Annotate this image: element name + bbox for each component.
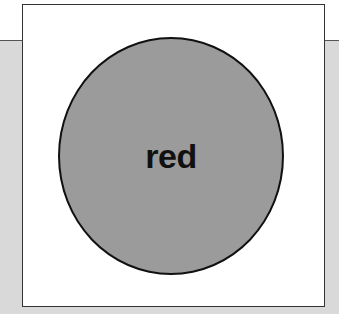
circle-shape: red [58,37,284,275]
flash-card: red [22,4,325,307]
circle-label: red [145,137,196,176]
